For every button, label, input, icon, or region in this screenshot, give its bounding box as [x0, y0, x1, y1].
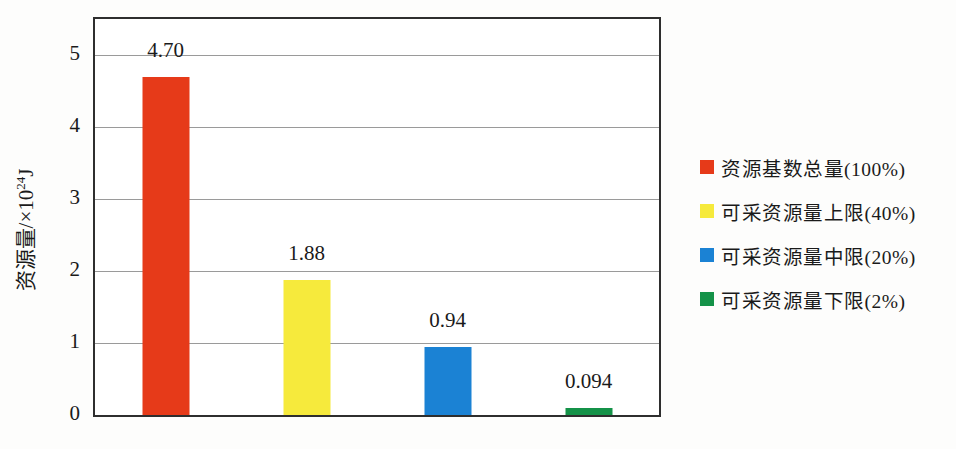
y-tick-label: 3: [40, 185, 80, 209]
bar-slot: 0.094: [518, 19, 659, 415]
legend-label: 可采资源量上限(40%): [721, 197, 916, 226]
chart-bar: [565, 408, 612, 415]
bar-value-label: 0.94: [429, 310, 466, 331]
legend-label: 可采资源量中限(20%): [721, 241, 916, 270]
chart-bar: [142, 77, 189, 415]
y-axis-label-suffix: J: [14, 169, 38, 177]
legend-label: 资源基数总量(100%): [721, 153, 905, 182]
chart-bar: [424, 347, 471, 415]
y-axis-label: 资源量/×1024J: [9, 169, 39, 292]
legend-item: 可采资源量中限(20%): [700, 243, 916, 267]
legend-swatch-icon: [700, 248, 714, 262]
legend-label: 可采资源量下限(2%): [721, 285, 905, 314]
bar-series: 4.701.880.940.094: [95, 19, 659, 415]
bar-chart: 资源量/×1024J 012345 4.701.880.940.094 资源基数…: [0, 0, 956, 449]
y-tick-label: 2: [40, 257, 80, 281]
chart-bar: [283, 280, 330, 415]
legend-item: 可采资源量下限(2%): [700, 287, 916, 311]
y-axis-label-superscript: 24: [13, 177, 28, 190]
legend-item: 资源基数总量(100%): [700, 155, 916, 179]
bar-slot: 1.88: [236, 19, 377, 415]
legend-swatch-icon: [700, 204, 714, 218]
bar-slot: 0.94: [377, 19, 518, 415]
bar-value-label: 1.88: [288, 243, 325, 264]
y-tick-label: 4: [40, 113, 80, 137]
y-tick-label: 0: [40, 401, 80, 425]
y-tick-label: 1: [40, 329, 80, 353]
legend-swatch-icon: [700, 292, 714, 306]
bar-slot: 4.70: [95, 19, 236, 415]
legend: 资源基数总量(100%)可采资源量上限(40%)可采资源量中限(20%)可采资源…: [700, 155, 916, 311]
plot-area: 4.701.880.940.094: [93, 17, 661, 417]
y-axis-label-prefix: 资源量/×10: [14, 190, 38, 292]
bar-value-label: 0.094: [565, 371, 612, 392]
legend-swatch-icon: [700, 160, 714, 174]
y-tick-label: 5: [40, 41, 80, 65]
bar-value-label: 4.70: [147, 40, 184, 61]
legend-item: 可采资源量上限(40%): [700, 199, 916, 223]
